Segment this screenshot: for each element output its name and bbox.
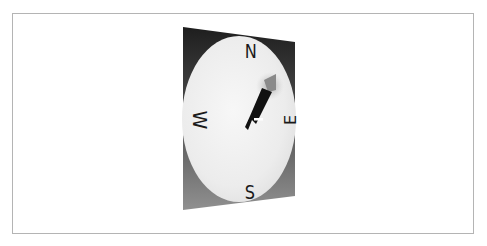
label-east: E [281,115,300,125]
label-south: S [245,182,255,204]
compass-illustration: N S W E [0,0,487,246]
needle-center-marker [254,118,263,121]
label-north: N [245,41,257,63]
label-west: W [189,111,211,130]
